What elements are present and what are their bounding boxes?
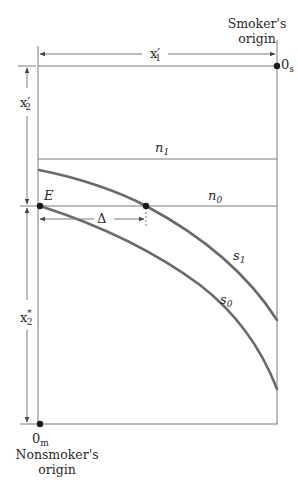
x1-prime-label: x′1 <box>150 46 161 63</box>
edgeworth-box-diagram: x′1 x′2 x*2 n1 n0 s1 s0 Δ E Smoker's ori… <box>0 0 298 482</box>
s0-curve <box>40 206 277 389</box>
point-e-label: E <box>43 188 54 203</box>
s1-curve <box>39 170 277 320</box>
nonsmoker-origin-label-line2: origin <box>38 462 76 477</box>
smoker-origin-label-line2: origin <box>238 31 276 46</box>
s1-n0-intersection-point <box>143 203 149 209</box>
smoker-origin-point <box>274 63 280 69</box>
delta-label: Δ <box>97 211 106 226</box>
x2-star-label: x*2 <box>20 308 33 327</box>
point-e <box>37 203 43 209</box>
nonsmoker-origin-symbol: 0m <box>32 431 49 448</box>
s1-label: s1 <box>233 248 245 265</box>
smoker-origin-symbol: 0s <box>281 57 294 74</box>
nonsmoker-origin-point <box>37 421 43 427</box>
x2-prime-label: x′2 <box>20 95 31 112</box>
n0-label: n0 <box>208 188 222 205</box>
s0-label: s0 <box>220 292 233 309</box>
smoker-origin-label-line1: Smoker's <box>228 16 287 31</box>
n1-label: n1 <box>155 140 169 157</box>
nonsmoker-origin-label-line1: Nonsmoker's <box>15 447 98 462</box>
